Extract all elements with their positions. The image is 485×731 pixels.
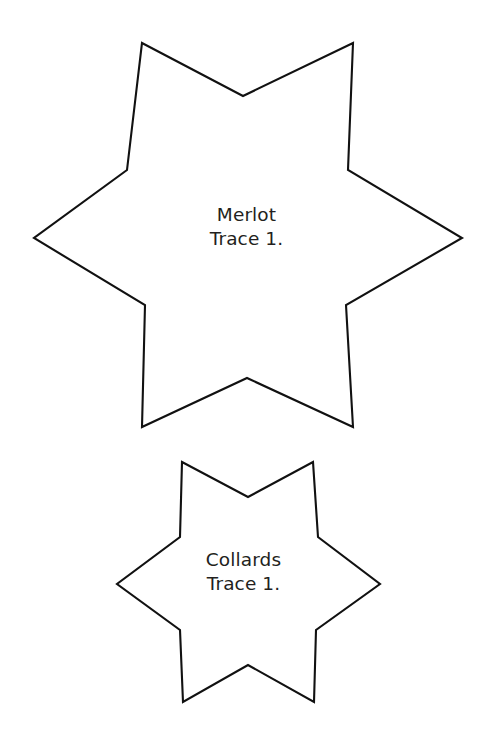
star-label-merlot-line2: Trace 1. [4,227,485,251]
star-label-collards: Collards Trace 1. [0,548,485,597]
star-label-merlot-line1: Merlot [4,203,485,227]
page-canvas: Merlot Trace 1. Collards Trace 1. [0,0,485,731]
star-label-collards-line2: Trace 1. [1,572,485,596]
star-label-merlot: Merlot Trace 1. [0,203,485,252]
star-label-collards-line1: Collards [1,548,485,572]
stars-drawing-surface [0,0,485,731]
